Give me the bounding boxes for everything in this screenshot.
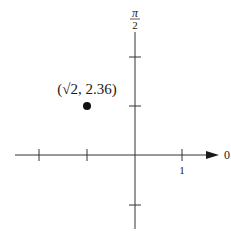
polar-plot: π 2 0 1 (√2, 2.36): [0, 0, 231, 234]
point-label: (√2, 2.36): [57, 81, 116, 98]
tick-label-1: 1: [179, 164, 185, 176]
vertical-axis-label-denominator: 2: [132, 19, 138, 31]
polar-axis-label: 0: [224, 148, 230, 162]
plotted-point: [83, 102, 91, 110]
vertical-axis-label-numerator: π: [132, 6, 139, 20]
arrow-right-icon: [206, 151, 219, 159]
